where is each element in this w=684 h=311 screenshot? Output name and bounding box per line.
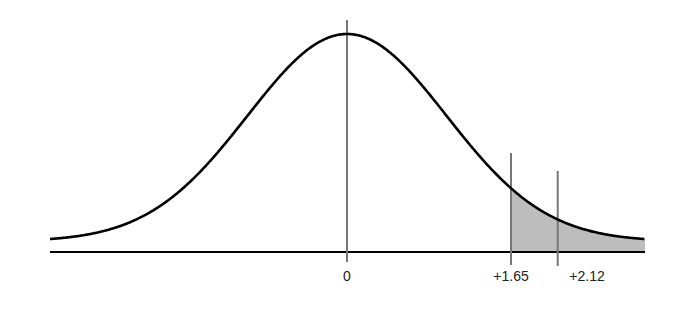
normal-curve-chart <box>0 0 684 311</box>
tick-label-0: 0 <box>343 268 351 284</box>
tick-label-2-12: +2.12 <box>569 268 604 284</box>
tick-label-1-65: +1.65 <box>493 268 528 284</box>
shaded-tail-region <box>511 188 645 252</box>
